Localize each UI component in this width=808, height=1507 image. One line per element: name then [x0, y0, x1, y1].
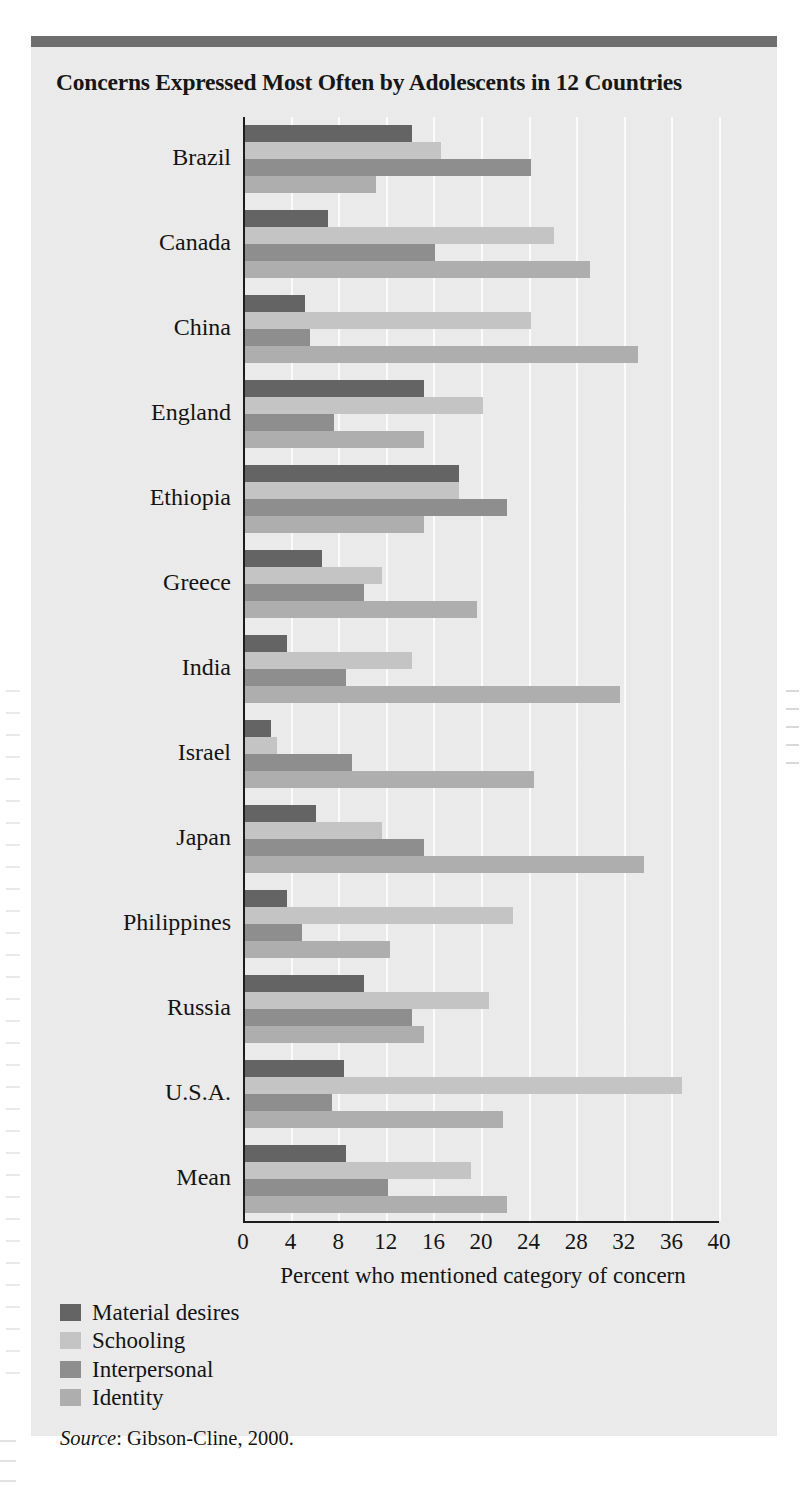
- figure-source: Source: Gibson-Cline, 2000.: [60, 1427, 294, 1450]
- category-label: China: [41, 314, 231, 341]
- bar-group: [245, 627, 719, 712]
- category-label: Canada: [41, 229, 231, 256]
- figure-panel: Concerns Expressed Most Often by Adolesc…: [31, 36, 777, 1436]
- bar: [245, 720, 271, 737]
- bar: [245, 1077, 682, 1094]
- legend-swatch-icon: [60, 1304, 81, 1321]
- bar: [245, 771, 534, 788]
- bar: [245, 1060, 344, 1077]
- legend-label: Material desires: [92, 1301, 240, 1324]
- bar: [245, 584, 364, 601]
- bar: [245, 1179, 388, 1196]
- bar: [245, 516, 424, 533]
- bar-group: [245, 202, 719, 287]
- category-label: Russia: [41, 994, 231, 1021]
- category-label: Brazil: [41, 144, 231, 171]
- legend-item: Interpersonal: [60, 1355, 480, 1384]
- bar-group: [245, 966, 719, 1051]
- bar: [245, 737, 277, 754]
- bar: [245, 261, 590, 278]
- category-label: Greece: [41, 569, 231, 596]
- category-label: England: [41, 399, 231, 426]
- bar: [245, 499, 507, 516]
- bar: [245, 295, 305, 312]
- bar-group: [245, 711, 719, 796]
- bar: [245, 210, 328, 227]
- bar: [245, 601, 477, 618]
- category-label: Mean: [41, 1164, 231, 1191]
- chart-title: Concerns Expressed Most Often by Adolesc…: [56, 69, 756, 96]
- bar: [245, 244, 435, 261]
- legend-item: Material desires: [60, 1298, 480, 1327]
- bar: [245, 805, 316, 822]
- bar-group: [245, 1136, 719, 1221]
- bar: [245, 652, 412, 669]
- bar: [245, 125, 412, 142]
- bar-group: [245, 796, 719, 881]
- left-margin-artifact-lower: [0, 1440, 16, 1500]
- legend-label: Identity: [92, 1386, 164, 1409]
- gridline: [719, 117, 721, 1221]
- bar-group: [245, 1051, 719, 1136]
- bar: [245, 142, 441, 159]
- bar: [245, 159, 531, 176]
- bar: [245, 1145, 346, 1162]
- bar: [245, 550, 322, 567]
- bar-group: [245, 287, 719, 372]
- legend-swatch-icon: [60, 1361, 81, 1378]
- category-label: Philippines: [41, 909, 231, 936]
- bar: [245, 414, 334, 431]
- bar: [245, 839, 424, 856]
- bar: [245, 397, 483, 414]
- bar: [245, 1162, 471, 1179]
- bar: [245, 686, 620, 703]
- bar-group: [245, 372, 719, 457]
- bar: [245, 669, 346, 686]
- bar: [245, 312, 531, 329]
- bar: [245, 856, 644, 873]
- bar: [245, 1009, 412, 1026]
- bar: [245, 227, 554, 244]
- bar-group: [245, 881, 719, 966]
- category-axis-labels: BrazilCanadaChinaEnglandEthiopiaGreeceIn…: [31, 117, 231, 1221]
- bar: [245, 380, 424, 397]
- bar: [245, 1196, 507, 1213]
- legend-label: Schooling: [92, 1329, 185, 1352]
- bar: [245, 176, 376, 193]
- category-label: India: [41, 654, 231, 681]
- plot-area: 0481216202428323640: [243, 117, 719, 1221]
- legend-item: Schooling: [60, 1327, 480, 1356]
- bar: [245, 635, 287, 652]
- source-word: Source: [60, 1427, 116, 1449]
- x-axis-title: Percent who mentioned category of concer…: [193, 1263, 773, 1289]
- legend-item: Identity: [60, 1384, 480, 1413]
- bar: [245, 567, 382, 584]
- figure-inner: Concerns Expressed Most Often by Adolesc…: [31, 47, 777, 1436]
- bar: [245, 431, 424, 448]
- bar: [245, 907, 513, 924]
- bar-group: [245, 457, 719, 542]
- chart-legend: Material desiresSchoolingInterpersonalId…: [60, 1298, 480, 1412]
- x-axis-line: [243, 1221, 719, 1223]
- category-label: Israel: [41, 739, 231, 766]
- category-label: Ethiopia: [41, 484, 231, 511]
- category-label: Japan: [41, 824, 231, 851]
- bar: [245, 890, 287, 907]
- bar: [245, 346, 638, 363]
- bar: [245, 975, 364, 992]
- bar-group: [245, 542, 719, 627]
- bar: [245, 482, 459, 499]
- x-tick-label: 40: [689, 1229, 749, 1255]
- legend-swatch-icon: [60, 1332, 81, 1349]
- source-text: : Gibson-Cline, 2000.: [116, 1427, 294, 1449]
- bar: [245, 465, 459, 482]
- bar-group: [245, 117, 719, 202]
- bar: [245, 924, 302, 941]
- left-margin-artifact: [6, 690, 20, 1390]
- figure-top-rule: [31, 36, 777, 47]
- bar: [245, 822, 382, 839]
- category-label: U.S.A.: [41, 1079, 231, 1106]
- bar: [245, 1111, 503, 1128]
- legend-swatch-icon: [60, 1389, 81, 1406]
- bar: [245, 754, 352, 771]
